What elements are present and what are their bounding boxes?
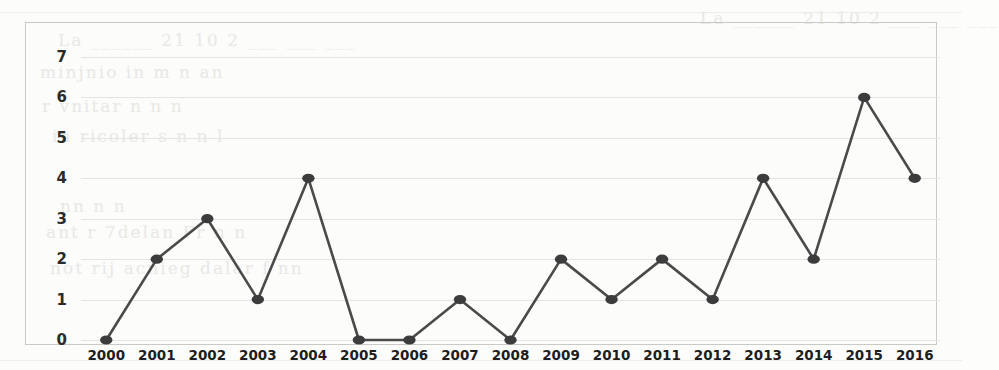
data-point-marker: 2010: 1: [605, 295, 617, 304]
data-series-svg: 2000: 02001: 22002: 32003: 12004: 42005:…: [81, 57, 940, 340]
plot-area: 01234567 2000200120022003200420052006200…: [81, 57, 940, 340]
data-point-marker: 2004: 4: [302, 174, 314, 183]
data-point-marker: 2016: 4: [909, 174, 921, 183]
data-point-marker: 2012: 1: [706, 295, 718, 304]
x-axis-tick-label: 2002: [189, 349, 227, 363]
data-point-marker: 2003: 1: [252, 295, 264, 304]
data-point-marker: 2013: 4: [757, 174, 769, 183]
data-point-marker: 2008: 0: [504, 335, 516, 344]
x-axis-tick-label: 2010: [593, 349, 631, 363]
data-point-marker: 2002: 3: [201, 214, 213, 223]
x-axis-tick-label: 2013: [744, 349, 782, 363]
x-axis-tick-label: 2003: [239, 349, 277, 363]
x-axis-tick-label: 2009: [542, 349, 580, 363]
data-point-marker: 2015: 6: [858, 93, 870, 102]
chart-frame: 01234567 2000200120022003200420052006200…: [25, 22, 937, 345]
data-point-marker: 2000: 0: [100, 335, 112, 344]
paper-rule: [0, 12, 962, 13]
y-axis-tick-label: 3: [57, 211, 67, 226]
data-point-marker: 2014: 2: [807, 255, 819, 264]
y-axis-tick-label: 5: [57, 130, 67, 145]
data-point-marker: 2006: 0: [403, 335, 415, 344]
y-axis-tick-label: 4: [57, 171, 67, 186]
x-axis-tick-label: 2015: [845, 349, 883, 363]
series-line: [106, 97, 914, 340]
y-axis-tick-label: 1: [57, 292, 67, 307]
y-axis-tick-label: 0: [57, 333, 67, 348]
data-point-marker: 2005: 0: [353, 335, 365, 344]
x-axis-tick-label: 2016: [896, 349, 934, 363]
x-axis-tick-label: 2011: [643, 349, 681, 363]
x-axis-tick-label: 2001: [138, 349, 176, 363]
x-axis-tick-label: 2008: [492, 349, 530, 363]
x-axis-tick-label: 2012: [694, 349, 732, 363]
data-point-marker: 2011: 2: [656, 255, 668, 264]
y-axis-tick-label: 7: [57, 50, 67, 65]
data-point-marker: 2009: 2: [555, 255, 567, 264]
x-axis-tick-label: 2014: [795, 349, 833, 363]
x-axis-tick-label: 2005: [340, 349, 378, 363]
data-point-marker: 2001: 2: [151, 255, 163, 264]
x-axis-tick-label: 2006: [391, 349, 429, 363]
y-axis-tick-label: 2: [57, 252, 67, 267]
x-axis-tick-label: 2007: [441, 349, 479, 363]
x-axis-tick-label: 2004: [290, 349, 328, 363]
data-point-marker: 2007: 1: [454, 295, 466, 304]
y-axis-tick-label: 6: [57, 90, 67, 105]
x-axis-tick-label: 2000: [87, 349, 125, 363]
